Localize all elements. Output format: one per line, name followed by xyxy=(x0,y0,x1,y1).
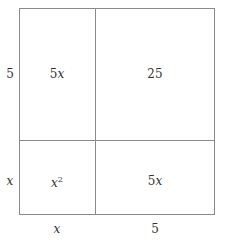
coefficient: 5 xyxy=(148,174,156,188)
cell-bottom-right-label: 5x xyxy=(148,174,162,188)
horizontal-divider xyxy=(19,140,215,141)
left-top-side-label: 5 xyxy=(6,67,14,81)
outer-square xyxy=(19,8,215,215)
coefficient: 5 xyxy=(50,67,58,81)
area-model-diagram: 5 x x 5 5x 25 x2 5x xyxy=(0,0,232,242)
cell-top-right-label: 25 xyxy=(147,67,162,81)
variable: x xyxy=(155,174,162,188)
bottom-right-side-label: 5 xyxy=(151,222,159,236)
vertical-divider xyxy=(95,8,96,215)
cell-bottom-left-label: x2 xyxy=(51,173,63,190)
exponent: 2 xyxy=(58,175,63,184)
variable: x xyxy=(57,67,64,81)
bottom-left-side-label: x xyxy=(54,222,61,236)
cell-top-left-label: 5x xyxy=(50,67,64,81)
base: x xyxy=(51,176,58,190)
left-bottom-side-label: x xyxy=(7,174,14,188)
